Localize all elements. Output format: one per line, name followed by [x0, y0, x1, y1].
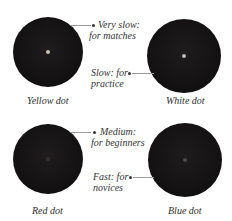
blue-dot-ball — [148, 123, 222, 197]
label-medium: Medium: for beginners — [100, 126, 145, 148]
leader-line-slow — [132, 73, 154, 74]
yellow-dot-icon — [46, 50, 50, 54]
red-dot-icon — [46, 157, 50, 161]
white-dot-icon — [182, 54, 186, 58]
white-dot-ball — [147, 19, 221, 93]
yellow-dot-ball — [13, 17, 83, 87]
label-slow-line1: Slow: for — [91, 67, 128, 78]
leader-line-very-slow — [70, 25, 91, 26]
blue-dot-icon — [183, 158, 187, 162]
label-medium-line1: Medium: — [100, 126, 145, 137]
label-very-slow: Very slow: for matches — [98, 19, 140, 41]
bullet-very-slow — [92, 24, 95, 27]
label-slow-line2: practice — [91, 78, 128, 89]
label-medium-line2: for beginners — [91, 137, 145, 148]
label-fast: Fast: for novices — [93, 171, 128, 193]
red-dot-ball — [13, 124, 83, 194]
caption-white-dot: White dot — [166, 95, 205, 107]
label-slow: Slow: for practice — [91, 67, 128, 89]
caption-blue-dot: Blue dot — [168, 205, 202, 217]
leader-line-fast — [133, 177, 154, 178]
caption-red-dot: Red dot — [32, 205, 63, 217]
leader-line-medium — [70, 132, 91, 133]
bullet-slow — [128, 72, 131, 75]
label-very-slow-line2: for matches — [89, 30, 140, 41]
label-fast-line1: Fast: for — [93, 171, 128, 182]
label-fast-line2: novices — [93, 182, 128, 193]
label-very-slow-line1: Very slow: — [98, 19, 140, 30]
bullet-fast — [129, 176, 132, 179]
caption-yellow-dot: Yellow dot — [27, 95, 69, 107]
bullet-medium — [93, 131, 96, 134]
